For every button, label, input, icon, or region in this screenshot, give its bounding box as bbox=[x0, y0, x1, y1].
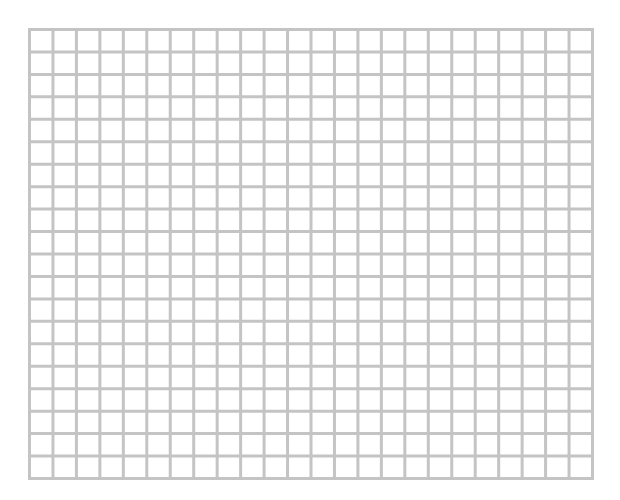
grid-lines bbox=[28, 28, 594, 480]
graph-paper-grid bbox=[28, 28, 594, 480]
